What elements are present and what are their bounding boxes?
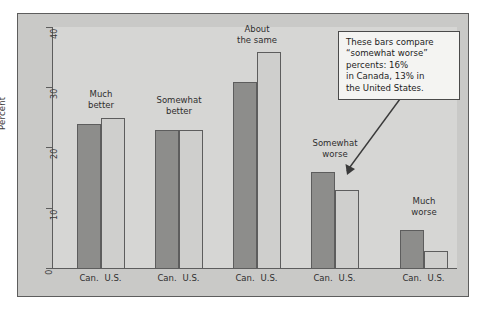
- y-tick-label-20: 20: [50, 149, 59, 160]
- group-label-line1: Much: [90, 89, 113, 99]
- bar-about-the-same-us: [257, 52, 281, 269]
- chart-figure: 40 30 20 10 0 Percent Much better Can. U…: [0, 0, 486, 312]
- callout-line-1: These bars compare: [346, 37, 453, 48]
- group-label-line1: Somewhat: [157, 95, 202, 105]
- y-tick-label-10: 10: [50, 210, 59, 221]
- bar-much-better-us: [101, 118, 125, 269]
- bar-somewhat-worse-us: [335, 190, 359, 269]
- group-label-line2: worse: [322, 149, 347, 159]
- bar-somewhat-better-can: [155, 130, 179, 269]
- group-label-line2: worse: [411, 207, 436, 217]
- callout-line-4: in Canada, 13% in: [346, 71, 453, 82]
- group-label-line1: Much: [413, 196, 436, 206]
- bar-somewhat-better-us: [179, 130, 203, 269]
- group-label-somewhat-worse: Somewhat worse: [295, 138, 375, 160]
- group-label-much-worse: Much worse: [384, 196, 464, 218]
- tick-label-somewhat-better-us: U.S.: [171, 273, 211, 283]
- y-tick-label-0: 0: [45, 270, 54, 275]
- group-label-line2: better: [88, 100, 114, 110]
- bar-much-worse-us: [424, 251, 448, 269]
- y-tick-label-30: 30: [50, 89, 59, 100]
- tick-label-much-better-us: U.S.: [93, 273, 133, 283]
- group-label-somewhat-better: Somewhat better: [139, 95, 219, 117]
- bar-somewhat-worse-can: [311, 172, 335, 269]
- group-label-about-the-same: About the same: [217, 24, 297, 46]
- tick-label-about-the-same-us: U.S.: [249, 273, 289, 283]
- tick-label-much-worse-us: U.S.: [416, 273, 456, 283]
- group-label-much-better: Much better: [61, 89, 141, 111]
- y-axis-title: Percent: [0, 97, 7, 130]
- callout-line-2: “somewhat worse”: [346, 48, 453, 59]
- bar-about-the-same-can: [233, 82, 257, 269]
- bar-much-worse-can: [400, 230, 424, 269]
- y-tick-label-40: 40: [50, 29, 59, 40]
- callout-line-3: percents: 16%: [346, 60, 453, 71]
- tick-label-somewhat-worse-us: U.S.: [327, 273, 367, 283]
- group-label-line2: better: [166, 106, 192, 116]
- group-label-line2: the same: [237, 35, 277, 45]
- annotation-callout-box: These bars compare “somewhat worse” perc…: [338, 31, 460, 100]
- bar-much-better-can: [77, 124, 101, 269]
- group-label-line1: About: [244, 24, 269, 34]
- group-label-line1: Somewhat: [313, 138, 358, 148]
- callout-line-5: the United States.: [346, 83, 453, 94]
